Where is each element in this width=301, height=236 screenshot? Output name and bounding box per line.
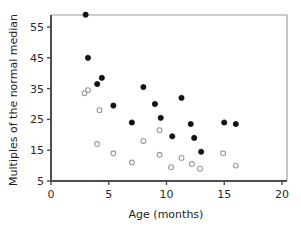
data-point-open — [95, 142, 100, 147]
data-point-filled — [192, 135, 197, 140]
plot-frame — [51, 15, 287, 181]
y-tick-label: 5 — [37, 175, 44, 188]
x-tick-label: 0 — [48, 188, 55, 201]
chart-canvas: 51525354555 05101520 Age (months) Multip… — [0, 0, 301, 236]
data-point-filled — [99, 75, 104, 80]
data-point-filled — [111, 103, 116, 108]
data-point-filled — [199, 149, 204, 154]
data-point-open — [141, 139, 146, 144]
data-point-open — [233, 163, 238, 168]
data-point-open — [157, 152, 162, 157]
data-point-filled — [188, 121, 193, 126]
data-point-open — [111, 151, 116, 156]
data-point-filled — [129, 120, 134, 125]
data-point-filled — [222, 120, 227, 125]
data-point-filled — [95, 81, 100, 86]
x-tick-label: 15 — [217, 188, 231, 201]
data-point-open — [190, 162, 195, 167]
x-tick-label: 20 — [275, 188, 289, 201]
y-tick-label: 35 — [30, 83, 44, 96]
data-point-open — [97, 108, 102, 113]
data-point-open — [169, 165, 174, 170]
data-series-open-circles — [82, 88, 238, 171]
data-point-filled — [152, 101, 157, 106]
data-point-filled — [141, 84, 146, 89]
data-point-open — [129, 160, 134, 165]
y-tick-label: 25 — [30, 113, 44, 126]
y-tick-label: 15 — [30, 144, 44, 157]
data-series-filled-circles — [83, 12, 238, 154]
y-axis-title: Multiples of the normal median — [7, 14, 20, 186]
data-point-open — [198, 166, 203, 171]
data-point-filled — [170, 134, 175, 139]
data-point-filled — [158, 115, 163, 120]
x-tick-label: 5 — [105, 188, 112, 201]
scatter-plot-figure: 51525354555 05101520 Age (months) Multip… — [0, 0, 301, 236]
data-point-open — [221, 151, 226, 156]
data-point-open — [86, 88, 91, 93]
x-axis-ticks: 05101520 — [48, 181, 290, 201]
data-point-filled — [179, 95, 184, 100]
data-point-open — [179, 156, 184, 161]
data-point-filled — [83, 12, 88, 17]
data-point-filled — [85, 55, 90, 60]
y-tick-label: 45 — [30, 52, 44, 65]
x-axis-title: Age (months) — [129, 208, 204, 221]
data-point-open — [157, 128, 162, 133]
x-tick-label: 10 — [160, 188, 174, 201]
y-tick-label: 55 — [30, 21, 44, 34]
data-point-filled — [233, 121, 238, 126]
y-axis-ticks: 51525354555 — [30, 21, 51, 188]
